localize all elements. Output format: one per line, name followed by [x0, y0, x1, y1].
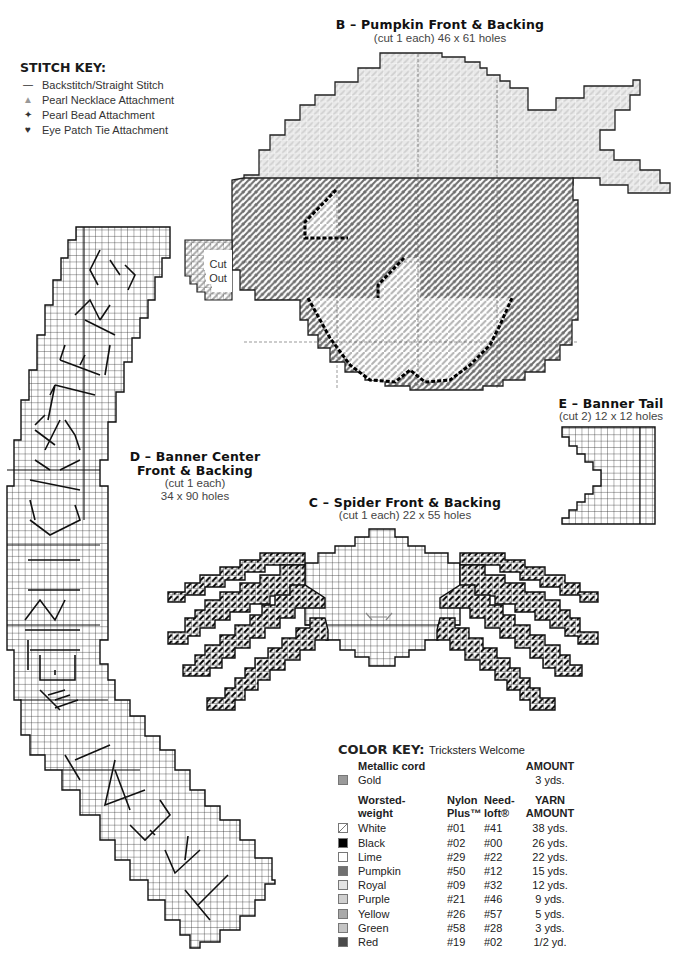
- swatch-black: [338, 838, 348, 848]
- color-key-row: Green#58#283 yds.: [338, 922, 668, 936]
- swatch-lime: [338, 852, 348, 862]
- metallic-header-row: Metallic cord AMOUNT: [338, 760, 668, 774]
- swatch-gold: [338, 775, 348, 785]
- swatch-white: [338, 823, 348, 833]
- yarn-header-row: Worsted-weight NylonPlus™ Need-loft® YAR…: [338, 794, 668, 822]
- swatch-purple: [338, 894, 348, 904]
- color-key-row: Black#02#0026 yds.: [338, 837, 668, 851]
- color-key-row: Lime#29#2222 yds.: [338, 851, 668, 865]
- color-key: COLOR KEY: Tricksters Welcome Metallic c…: [338, 742, 668, 950]
- color-key-title: COLOR KEY: Tricksters Welcome: [338, 742, 668, 757]
- swatch-red: [338, 937, 348, 947]
- color-key-row: Purple#21#469 yds.: [338, 893, 668, 907]
- color-key-row: Gold 3 yds.: [338, 774, 668, 788]
- swatch-pumpkin: [338, 866, 348, 876]
- swatch-green: [338, 923, 348, 933]
- color-key-row: Red#19#021/2 yd.: [338, 936, 668, 950]
- color-key-row: Pumpkin#50#1215 yds.: [338, 865, 668, 879]
- color-key-row: Yellow#26#575 yds.: [338, 908, 668, 922]
- swatch-yellow: [338, 909, 348, 919]
- color-key-row: Royal#09#3212 yds.: [338, 879, 668, 893]
- color-key-row: White#01#4138 yds.: [338, 822, 668, 836]
- swatch-royal: [338, 880, 348, 890]
